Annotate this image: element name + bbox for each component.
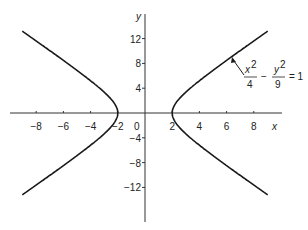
- svg-text:−6: −6: [58, 121, 70, 132]
- svg-text:x: x: [244, 64, 251, 75]
- svg-text:9: 9: [275, 79, 281, 90]
- svg-text:= 1: = 1: [289, 71, 304, 82]
- x-axis-label: x: [271, 121, 278, 132]
- svg-text:4: 4: [135, 83, 141, 94]
- svg-text:2: 2: [251, 59, 257, 70]
- svg-text:−12: −12: [124, 182, 141, 193]
- annotation-arrow-line: [234, 61, 244, 75]
- svg-text:−8: −8: [130, 158, 142, 169]
- svg-text:2: 2: [280, 59, 286, 70]
- svg-text:2: 2: [169, 121, 175, 132]
- svg-text:12: 12: [130, 34, 142, 45]
- svg-text:8: 8: [135, 58, 141, 69]
- svg-text:−8: −8: [30, 121, 42, 132]
- arrow-head-icon: [231, 57, 236, 63]
- origin-label: 0: [134, 121, 140, 132]
- svg-text:8: 8: [251, 121, 257, 132]
- svg-text:−4: −4: [130, 133, 142, 144]
- hyperbola-chart: −8−6−4−22468 1284−4−8−12 x y 0 x 2 4 − y…: [0, 0, 308, 230]
- x-ticks: −8−6−4−22468: [30, 111, 257, 132]
- equation-annotation: x 2 4 − y 2 9 = 1: [244, 59, 304, 90]
- svg-text:4: 4: [197, 121, 203, 132]
- y-axis-label: y: [135, 11, 142, 22]
- svg-text:−: −: [261, 71, 267, 82]
- svg-text:6: 6: [224, 121, 230, 132]
- svg-text:y: y: [273, 64, 280, 75]
- svg-text:4: 4: [247, 79, 253, 90]
- svg-text:−4: −4: [85, 121, 97, 132]
